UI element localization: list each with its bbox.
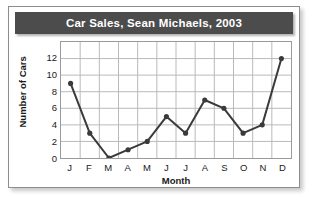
x-axis-label: Month [60,175,292,186]
x-tick-label: S [216,162,232,173]
y-tick-label: 10 [37,70,57,80]
y-axis-label: Number of Cars [17,58,28,128]
y-axis-tick-labels: 024681012 [37,35,57,159]
x-tick-label: D [274,162,290,173]
line-series-car-sales [61,42,291,158]
x-tick-label: J [62,162,78,173]
y-tick-label: 8 [37,87,57,97]
chart-title-bar: Car Sales, Sean Michaels, 2003 [15,12,293,34]
x-tick-label: J [178,162,194,173]
chart-card: Car Sales, Sean Michaels, 2003 Number of… [8,6,300,188]
x-tick-label: J [158,162,174,173]
x-tick-label: A [120,162,136,173]
plot-area [60,41,292,159]
y-tick-label: 12 [37,53,57,63]
x-tick-label: M [139,162,155,173]
page-title: Car Sales, Sean Michaels, 2003 [66,17,242,29]
x-tick-label: O [236,162,252,173]
y-tick-label: 6 [37,104,57,114]
y-tick-label: 2 [37,137,57,147]
plot-wrapper: Number of Cars 024681012 JFMAMJJASOND Mo… [9,35,299,188]
x-tick-label: N [255,162,271,173]
x-tick-label: M [100,162,116,173]
y-tick-label: 0 [37,154,57,164]
y-tick-label: 4 [37,121,57,131]
x-tick-label: F [81,162,97,173]
x-axis-tick-labels: JFMAMJJASOND [60,162,292,176]
x-tick-label: A [197,162,213,173]
